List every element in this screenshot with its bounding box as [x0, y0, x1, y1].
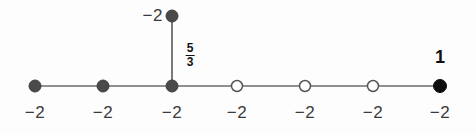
weight-label-branch-top: −2 [143, 7, 163, 24]
weight-label-node-4: −2 [227, 104, 247, 121]
weight-label-node-3: −2 [162, 104, 182, 121]
node-3-junction [166, 80, 178, 92]
node-2 [97, 80, 109, 92]
node-4 [232, 81, 243, 92]
plumbing-diagram: −2 5 3 1 −2 −2 −2 −2 −2 −2 −2 [0, 0, 476, 134]
fraction-denominator: 3 [186, 55, 195, 69]
edge-label-fraction: 5 3 [186, 42, 195, 68]
node-7 [434, 80, 447, 93]
weight-label-node-5: −2 [295, 104, 315, 121]
weight-label-node-2: −2 [93, 104, 113, 121]
multiplicity-label: 1 [435, 48, 445, 66]
fraction-numerator: 5 [186, 42, 195, 55]
node-branch-top [166, 10, 178, 22]
weight-label-node-6: −2 [363, 104, 383, 121]
node-5 [300, 81, 311, 92]
weight-label-node-7: −2 [430, 104, 450, 121]
weight-label-node-1: −2 [25, 104, 45, 121]
node-1 [29, 80, 41, 92]
node-6 [368, 81, 379, 92]
